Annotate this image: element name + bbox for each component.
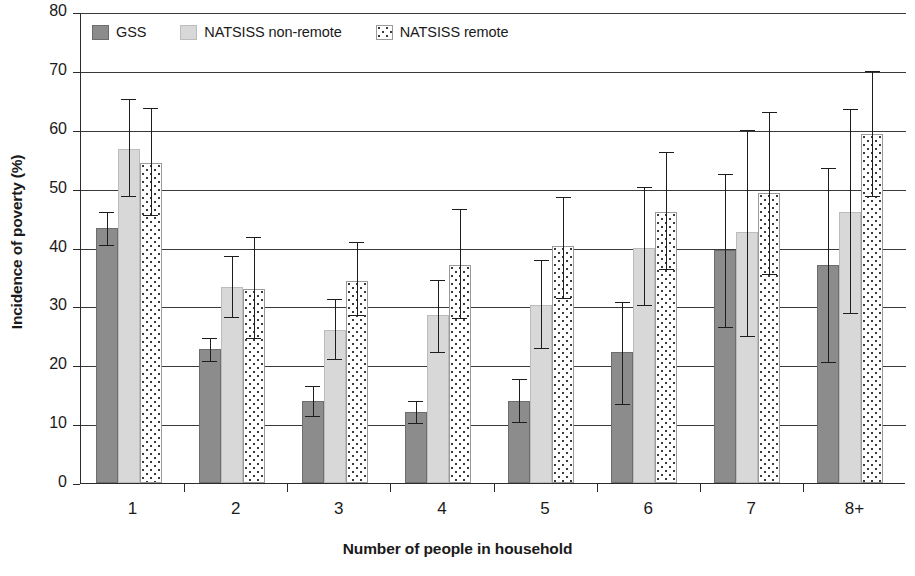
bar-gss [96,228,118,483]
y-tick-label: 60 [21,120,67,138]
y-tick-mark [73,190,80,191]
y-tick-label: 80 [21,2,67,20]
x-tick-mark [700,484,701,492]
x-tick-mark [287,484,288,492]
x-tick-label: 2 [184,499,287,519]
error-bar-cap-lower [821,362,836,363]
error-bar-cap-upper [327,299,342,300]
error-bar-cap-upper [202,338,217,339]
bar-group [597,12,700,483]
x-axis-title: Number of people in household [0,540,915,558]
error-bar-cap-lower [556,298,571,299]
error-bar-cap-upper [430,280,445,281]
error-bar-cap-upper [349,242,364,243]
error-bar-line [850,109,851,313]
error-bar-cap-lower [740,336,755,337]
error-bar-line [622,302,623,404]
legend-label: GSS [116,24,146,40]
error-bar-cap-upper [246,237,261,238]
error-bar-cap-upper [408,401,423,402]
x-tick-label: 4 [390,499,493,519]
error-bar-cap-lower [121,196,136,197]
error-bar-cap-lower [202,361,217,362]
error-bar-cap-lower [659,269,674,270]
error-bar-line [644,187,645,305]
error-bar-line [129,99,130,196]
x-tick-label: 8+ [803,499,906,519]
error-bar-cap-upper [821,168,836,169]
x-tick-label: 6 [597,499,700,519]
error-bar-cap-upper [659,152,674,153]
error-bar-cap-upper [512,379,527,380]
y-tick-label: 10 [21,414,67,432]
error-bar-line [541,260,542,347]
error-bar-line [210,338,211,361]
y-tick-label: 70 [21,61,67,79]
error-bar-cap-lower [305,416,320,417]
legend-label: NATSISS remote [400,24,509,40]
error-bar-cap-lower [224,317,239,318]
legend-item: NATSISS remote [376,24,509,40]
y-tick-mark [73,425,80,426]
y-tick-mark [73,484,80,485]
error-bar-line [828,168,829,362]
error-bar-cap-lower [99,245,114,246]
error-bar-cap-upper [452,209,467,210]
error-bar-line [151,108,152,215]
error-bar-line [335,299,336,360]
bar-group [494,12,597,483]
error-bar-cap-upper [305,386,320,387]
y-tick-label: 50 [21,179,67,197]
legend-swatch-remote-icon [376,25,393,40]
error-bar-line [460,209,461,318]
x-tick-label: 1 [81,499,184,519]
error-bar-cap-lower [615,404,630,405]
error-bar-line [107,212,108,244]
error-bar-cap-lower [534,348,549,349]
bar-group [700,12,803,483]
error-bar-line [519,379,520,423]
error-bar-cap-upper [740,130,755,131]
error-bar-line [747,130,748,336]
legend-swatch-gss-icon [92,25,109,40]
error-bar-cap-lower [349,315,364,316]
x-tick-label: 5 [494,499,597,519]
bar-nonremote [118,149,140,483]
error-bar-line [254,237,255,338]
error-bar-cap-lower [637,305,652,306]
y-tick-label: 0 [21,473,67,491]
bar-gss [199,349,221,483]
y-tick-mark [73,366,80,367]
error-bar-line [872,71,873,196]
error-bar-cap-upper [224,256,239,257]
bar-group [390,12,493,483]
y-tick-label: 30 [21,296,67,314]
error-bar-cap-lower [843,313,858,314]
error-bar-cap-upper [865,71,880,72]
bar-group [287,12,390,483]
error-bar-cap-lower [408,423,423,424]
error-bar-cap-lower [762,274,777,275]
y-tick-label: 20 [21,355,67,373]
error-bar-cap-upper [843,109,858,110]
y-tick-label: 40 [21,238,67,256]
x-tick-label: 7 [700,499,803,519]
error-bar-cap-upper [615,302,630,303]
x-tick-mark [597,484,598,492]
legend-item: GSS [92,24,146,40]
error-bar-cap-lower [865,196,880,197]
error-bar-cap-upper [762,112,777,113]
error-bar-line [769,112,770,274]
error-bar-cap-upper [637,187,652,188]
error-bar-cap-upper [99,212,114,213]
y-tick-mark [73,72,80,73]
y-tick-mark [73,249,80,250]
x-tick-mark [494,484,495,492]
legend-item: NATSISS non-remote [180,24,341,40]
legend-swatch-nonremote-icon [180,25,197,40]
error-bar-cap-lower [512,422,527,423]
error-bar-cap-lower [246,338,261,339]
error-bar-cap-upper [121,99,136,100]
error-bar-cap-lower [327,359,342,360]
x-tick-mark [390,484,391,492]
